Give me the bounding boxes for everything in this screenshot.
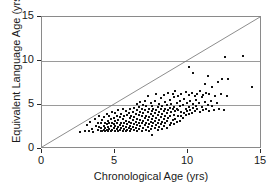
data-point xyxy=(123,122,125,124)
data-point xyxy=(177,109,179,111)
data-point xyxy=(133,107,135,109)
data-point xyxy=(151,125,153,127)
data-point xyxy=(158,103,160,105)
data-point xyxy=(186,102,188,104)
data-point xyxy=(207,104,209,106)
data-point xyxy=(176,102,178,104)
data-point xyxy=(210,100,212,102)
data-point xyxy=(251,86,253,88)
y-axis-title: Equivalent Language Age (yrs) xyxy=(10,0,22,143)
data-point xyxy=(130,128,132,130)
data-point xyxy=(207,75,209,77)
data-point xyxy=(101,119,103,121)
data-point xyxy=(199,111,201,113)
data-point xyxy=(185,91,187,93)
data-point xyxy=(188,106,190,108)
data-point xyxy=(205,108,207,110)
data-point xyxy=(84,130,86,132)
data-point xyxy=(144,100,146,102)
data-point xyxy=(98,115,100,117)
data-point xyxy=(116,115,118,117)
data-point xyxy=(217,81,219,83)
data-point xyxy=(100,122,102,124)
data-point xyxy=(202,109,204,111)
data-point xyxy=(104,130,106,132)
data-point xyxy=(170,111,172,113)
data-point xyxy=(157,106,159,108)
data-point xyxy=(172,119,174,121)
data-point xyxy=(126,123,128,125)
data-point xyxy=(79,131,81,133)
data-point xyxy=(167,117,169,119)
x-tick-label-10: 10 xyxy=(177,155,197,166)
data-point xyxy=(94,118,96,120)
data-point xyxy=(160,123,162,125)
data-point xyxy=(151,118,153,120)
data-point xyxy=(160,108,162,110)
data-point xyxy=(205,92,207,94)
data-point xyxy=(111,129,113,131)
data-point xyxy=(142,112,144,114)
data-point xyxy=(125,130,127,132)
data-point xyxy=(132,119,134,121)
data-point xyxy=(133,123,135,125)
data-point xyxy=(125,110,127,112)
data-point xyxy=(141,108,143,110)
data-point xyxy=(151,110,153,112)
data-point xyxy=(88,130,90,132)
data-point xyxy=(213,109,215,111)
data-point xyxy=(169,107,171,109)
data-points-layer xyxy=(42,17,260,147)
data-point xyxy=(169,99,171,101)
data-point xyxy=(125,120,127,122)
data-point xyxy=(122,130,124,132)
data-point xyxy=(154,100,156,102)
data-point xyxy=(129,117,131,119)
data-point xyxy=(106,113,108,115)
data-point xyxy=(191,112,193,114)
data-point xyxy=(119,129,121,131)
data-point xyxy=(208,110,210,112)
data-point xyxy=(123,115,125,117)
data-point xyxy=(135,121,137,123)
data-point xyxy=(166,112,168,114)
data-point xyxy=(182,117,184,119)
x-tick-label-5: 5 xyxy=(104,155,124,166)
data-point xyxy=(155,124,157,126)
data-point xyxy=(144,109,146,111)
data-point xyxy=(151,134,153,136)
data-point xyxy=(117,119,119,121)
data-point xyxy=(216,102,218,104)
data-point xyxy=(202,94,204,96)
data-point xyxy=(119,116,121,118)
data-point xyxy=(208,93,210,95)
data-point xyxy=(103,116,105,118)
data-point xyxy=(166,120,168,122)
data-point xyxy=(221,78,223,80)
data-point xyxy=(177,115,179,117)
data-point xyxy=(122,108,124,110)
data-point xyxy=(195,99,197,101)
data-point xyxy=(194,110,196,112)
data-point xyxy=(144,124,146,126)
data-point xyxy=(110,130,112,132)
data-point xyxy=(204,101,206,103)
x-axis-title: Chronological Age (yrs) xyxy=(41,170,261,182)
data-point xyxy=(114,130,116,132)
data-point xyxy=(89,121,91,123)
data-point xyxy=(141,115,143,117)
data-point xyxy=(150,128,152,130)
y-tick-label-5: 5 xyxy=(0,98,34,109)
data-point xyxy=(136,118,138,120)
data-point xyxy=(86,124,88,126)
data-point xyxy=(164,122,166,124)
data-point xyxy=(129,108,131,110)
data-point xyxy=(147,111,149,113)
data-point xyxy=(148,108,150,110)
data-point xyxy=(120,113,122,115)
data-point xyxy=(192,72,194,74)
data-point xyxy=(128,121,130,123)
data-point xyxy=(196,108,198,110)
data-point xyxy=(139,111,141,113)
data-point xyxy=(174,110,176,112)
